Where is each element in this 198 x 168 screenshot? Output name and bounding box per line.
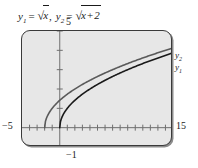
caption-y1-equals: =	[26, 10, 36, 22]
graph-viewing-window	[21, 30, 172, 146]
plot-svg	[22, 31, 172, 146]
curve-label-y1: y1	[175, 63, 182, 76]
figure-container: y1=√x,y2=√x+2 5 −5 15 −1 y2 y1	[0, 0, 198, 168]
caption-y1-radical: √x	[37, 6, 49, 25]
axis-label-xmin: −5	[2, 121, 13, 131]
caption-y2-radicand-right: 2	[94, 9, 100, 21]
caption-y2-radicand: x+2	[81, 5, 101, 24]
curve-y1	[60, 53, 172, 128]
curve-label-y2-subscript: 2	[179, 56, 182, 62]
caption-y2-radicand-operator: +	[86, 9, 94, 21]
axis-label-ymax: 5	[66, 17, 71, 27]
axis-label-xmax: 15	[176, 121, 186, 131]
equation-caption: y1=√x,y2=√x+2	[18, 6, 194, 24]
caption-y1-radicand: x	[43, 5, 49, 24]
caption-separator: ,	[49, 10, 56, 22]
axis-label-ymin: −1	[66, 150, 77, 160]
caption-y2-radical: √x+2	[74, 6, 100, 25]
curve-label-y1-subscript: 1	[179, 68, 182, 74]
